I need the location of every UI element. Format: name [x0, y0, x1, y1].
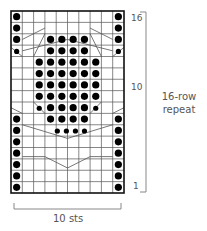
repeat-label-line2: repeat [153, 103, 205, 116]
stitch-count-label: 10 sts [53, 213, 83, 224]
row-label-10: 10 [131, 83, 142, 92]
row-label-1: 1 [133, 182, 139, 191]
repeat-label: 16-row repeat [153, 90, 205, 116]
row-repeat-bracket [140, 12, 146, 192]
repeat-label-line1: 16-row [153, 90, 205, 103]
row-label-16: 16 [131, 14, 142, 23]
stitch-grid [11, 11, 124, 193]
stitch-count-bracket [14, 203, 121, 209]
